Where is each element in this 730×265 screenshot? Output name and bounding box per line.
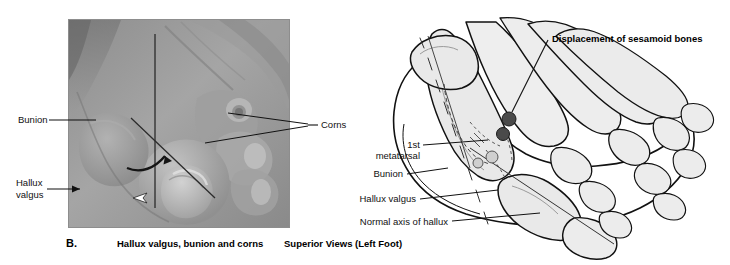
diagram-caption: Superior Views (Left Foot) bbox=[284, 238, 402, 249]
photo-caption: Hallux valgus, bunion and corns bbox=[117, 238, 263, 249]
leader-line-photo-corns-1 bbox=[228, 113, 308, 124]
diagram-label-first-metatarsal-line1: 1st bbox=[407, 139, 420, 150]
diagram-title-sesamoid-displacement: Displacement of sesamoid bones bbox=[552, 33, 702, 44]
panel-letter-label: B. bbox=[66, 237, 77, 249]
photo-label-hallux-valgus-line2: valgus bbox=[16, 189, 43, 200]
photo-label-corns: Corns bbox=[321, 119, 346, 130]
photo-label-hallux-valgus-line1: Hallux bbox=[16, 177, 42, 188]
sesamoid-ghost-2 bbox=[473, 158, 483, 168]
photo-label-hallux-valgus: Hallux valgus bbox=[16, 177, 50, 201]
diagram-label-normal-axis-of-hallux: Normal axis of hallux bbox=[326, 216, 448, 227]
diagram-label-bunion: Bunion bbox=[340, 168, 403, 179]
leader-line-photo-corns-2 bbox=[205, 126, 308, 143]
diagram-label-first-metatarsal-line2: metatarsal bbox=[376, 150, 420, 161]
sesamoid-ghost-1 bbox=[486, 151, 498, 163]
photo-label-bunion: Bunion bbox=[18, 114, 48, 125]
sesamoid-bone-lateral bbox=[502, 112, 516, 126]
sesamoid-bone-medial bbox=[497, 128, 510, 141]
diagram-label-first-metatarsal: 1st metatarsal bbox=[356, 139, 420, 161]
diagram-label-hallux-valgus: Hallux valgus bbox=[330, 193, 416, 204]
figure-container: Bunion Hallux valgus Corns Displacement … bbox=[0, 0, 730, 265]
